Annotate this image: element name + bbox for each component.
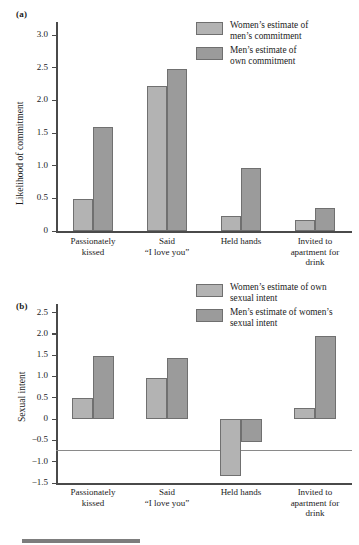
bar-a-s1-c0 [93, 127, 113, 232]
y-tick-6 [52, 35, 56, 36]
y-tick-label-3: 1.5 [14, 127, 48, 137]
y-tick-8 [52, 483, 56, 484]
y-tick-label-3: 1.0 [14, 370, 48, 380]
y-tick-label-5: 2.5 [14, 62, 48, 72]
panel-b: (b) Women’s estimate of own sexual inten… [0, 272, 359, 527]
bar-b-s1-c0 [93, 356, 114, 420]
y-tick-label-2: 1.5 [14, 349, 48, 359]
category-label-b-3: Invited to apartment for drink [271, 487, 359, 519]
x-axis-line-panel-a [56, 231, 352, 233]
y-axis-line-panel-b [56, 304, 58, 484]
bar-a-s0-c3 [295, 220, 315, 231]
category-label-a-3: Invited to apartment for drink [271, 236, 359, 268]
y-tick-label-7: −1.0 [14, 456, 48, 466]
zero-line-panel-b [56, 450, 352, 451]
y-tick-label-4: 0.5 [14, 392, 48, 402]
plot-area-panel-b: 2.52.01.51.00.50−0.5−1.0−1.5 Passionatel… [0, 272, 359, 527]
y-tick-label-0: 2.5 [14, 307, 48, 317]
y-tick-0 [52, 312, 56, 313]
y-axis-line-panel-a [56, 22, 58, 232]
y-tick-label-4: 2.0 [14, 94, 48, 104]
y-tick-5 [52, 419, 56, 420]
y-tick-0 [52, 231, 56, 232]
y-tick-6 [52, 440, 56, 441]
bar-b-s1-c3 [315, 336, 336, 419]
bar-b-s0-c1 [146, 378, 167, 419]
y-tick-7 [52, 461, 56, 462]
x-axis-line-panel-b [56, 483, 352, 485]
panel-a: (a) Women’s estimate of men’s commitment… [0, 0, 359, 272]
bar-a-s1-c1 [167, 69, 187, 231]
bar-b-s0-c0 [72, 398, 93, 419]
y-tick-3 [52, 133, 56, 134]
plot-area-panel-a: 00.51.01.52.02.53.0 Passionately kissedS… [0, 0, 359, 272]
bar-a-s1-c2 [241, 168, 261, 231]
y-tick-3 [52, 376, 56, 377]
y-tick-label-5: 0 [14, 413, 48, 423]
y-tick-label-1: 2.0 [14, 328, 48, 338]
y-tick-1 [52, 198, 56, 199]
y-tick-label-1: 0.5 [14, 192, 48, 202]
bar-a-s0-c1 [147, 86, 167, 231]
bar-a-s0-c0 [73, 199, 93, 231]
y-tick-4 [52, 397, 56, 398]
bar-a-s0-c2 [221, 216, 241, 231]
y-tick-label-2: 1.0 [14, 160, 48, 170]
bar-b-s1-c1 [167, 358, 188, 419]
bar-b-s0-c3 [294, 408, 315, 419]
y-tick-2 [52, 165, 56, 166]
figure-two-panel-bar-charts: (a) Women’s estimate of men’s commitment… [0, 0, 359, 545]
y-tick-4 [52, 100, 56, 101]
y-tick-label-6: 3.0 [14, 29, 48, 39]
bar-b-s1-c2 [241, 419, 262, 442]
bar-a-s1-c3 [315, 208, 335, 231]
y-tick-2 [52, 355, 56, 356]
caption-rule [22, 539, 140, 543]
y-tick-label-8: −1.5 [14, 477, 48, 487]
y-tick-label-0: 0 [14, 225, 48, 235]
y-tick-label-6: −0.5 [14, 434, 48, 444]
y-tick-1 [52, 333, 56, 334]
y-tick-5 [52, 67, 56, 68]
bar-b-s0-c2 [220, 419, 241, 476]
